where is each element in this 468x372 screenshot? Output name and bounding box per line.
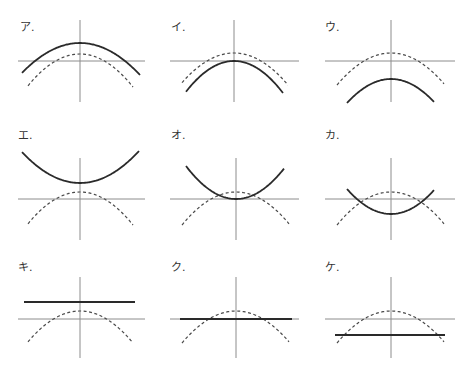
panel-label-i: イ. xyxy=(171,22,186,33)
graph-panel xyxy=(170,277,299,358)
panel-label-e: エ. xyxy=(18,130,33,141)
graph-panel xyxy=(325,20,455,103)
graph-grid xyxy=(0,0,468,372)
graph-panel xyxy=(18,151,145,240)
solid-parabola xyxy=(22,43,140,75)
panel-label-ki: キ. xyxy=(18,262,33,273)
panel-label-ku: ク. xyxy=(171,262,186,273)
graph-panel xyxy=(18,20,145,102)
graph-panel xyxy=(325,158,455,240)
graph-panel xyxy=(18,277,145,358)
solid-parabola xyxy=(186,166,284,199)
graph-panel xyxy=(170,158,299,240)
panel-label-ke: ケ. xyxy=(325,262,340,273)
graph-panel xyxy=(170,20,299,102)
panel-label-o: オ. xyxy=(171,130,186,141)
graph-panel xyxy=(325,277,455,358)
panel-label-u: ウ. xyxy=(325,22,340,33)
panel-label-ka: カ. xyxy=(325,130,340,141)
panel-label-a: ア. xyxy=(20,22,35,33)
